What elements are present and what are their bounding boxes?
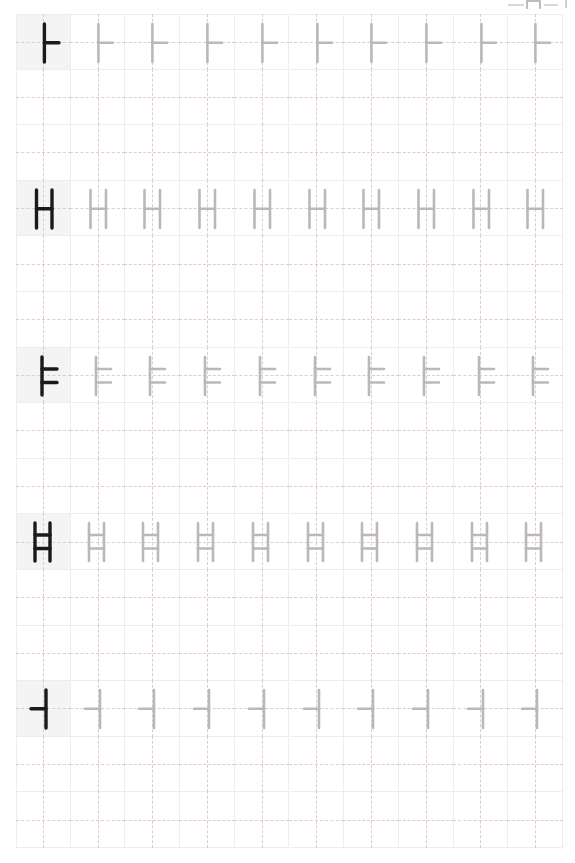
vertical-guide-line	[535, 791, 536, 848]
trace-character-glyph	[508, 348, 563, 404]
vertical-guide-line	[535, 291, 536, 348]
trace-character-cell[interactable]	[344, 14, 399, 70]
blank-cell	[508, 292, 563, 348]
trace-character-glyph	[71, 348, 126, 404]
vertical-guide-line	[207, 458, 208, 515]
handwriting-practice-grid	[16, 14, 563, 848]
trace-character-cell[interactable]	[125, 181, 180, 237]
trace-character-glyph	[290, 681, 345, 737]
trace-character-cell[interactable]	[454, 681, 509, 737]
trace-character-cell[interactable]	[71, 348, 126, 404]
vertical-guide-line	[371, 569, 372, 626]
trace-character-glyph	[290, 181, 345, 237]
blank-cell	[125, 459, 180, 515]
vertical-guide-line	[480, 402, 481, 459]
trace-character-cell[interactable]	[235, 514, 290, 570]
model-character-glyph	[17, 681, 72, 737]
blank-cell	[235, 570, 290, 626]
trace-character-cell[interactable]	[454, 181, 509, 237]
trace-character-cell[interactable]	[344, 681, 399, 737]
trace-character-cell[interactable]	[399, 348, 454, 404]
trace-character-cell[interactable]	[454, 348, 509, 404]
trace-character-cell[interactable]	[508, 348, 563, 404]
model-character-cell	[16, 181, 71, 237]
trace-character-cell[interactable]	[235, 681, 290, 737]
trace-character-cell[interactable]	[180, 348, 235, 404]
trace-character-cell[interactable]	[180, 181, 235, 237]
trace-character-cell[interactable]	[180, 681, 235, 737]
trace-character-cell[interactable]	[508, 181, 563, 237]
trace-character-cell[interactable]	[125, 681, 180, 737]
blank-cell	[290, 792, 345, 848]
trace-character-cell[interactable]	[290, 681, 345, 737]
vertical-guide-line	[207, 291, 208, 348]
blank-cell	[344, 570, 399, 626]
trace-character-cell[interactable]	[399, 181, 454, 237]
trace-character-cell[interactable]	[399, 14, 454, 70]
blank-cell	[508, 125, 563, 181]
blank-cell	[16, 626, 71, 682]
vertical-guide-line	[43, 402, 44, 459]
trace-character-cell[interactable]	[125, 348, 180, 404]
trace-character-cell[interactable]	[508, 681, 563, 737]
blank-cell	[71, 737, 126, 793]
trace-character-cell[interactable]	[180, 514, 235, 570]
blank-cell	[71, 459, 126, 515]
blank-cell	[180, 292, 235, 348]
vertical-guide-line	[316, 736, 317, 793]
trace-character-glyph	[344, 348, 399, 404]
blank-cell	[399, 292, 454, 348]
trace-character-glyph	[399, 181, 454, 237]
vertical-guide-line	[535, 458, 536, 515]
trace-character-cell[interactable]	[454, 514, 509, 570]
vertical-guide-line	[262, 291, 263, 348]
trace-character-glyph	[180, 348, 235, 404]
trace-character-cell[interactable]	[180, 14, 235, 70]
blank-cell	[344, 125, 399, 181]
vertical-guide-line	[98, 235, 99, 292]
model-character-cell	[16, 348, 71, 404]
trace-character-cell[interactable]	[71, 181, 126, 237]
trace-character-cell[interactable]	[290, 348, 345, 404]
vertical-guide-line	[480, 791, 481, 848]
vertical-guide-line	[262, 235, 263, 292]
trace-character-cell[interactable]	[454, 14, 509, 70]
trace-character-cell[interactable]	[399, 681, 454, 737]
blank-cell	[125, 737, 180, 793]
trace-character-cell[interactable]	[290, 514, 345, 570]
trace-character-cell[interactable]	[235, 181, 290, 237]
trace-character-cell[interactable]	[399, 514, 454, 570]
blank-cell	[290, 292, 345, 348]
trace-character-cell[interactable]	[290, 181, 345, 237]
trace-character-glyph	[235, 681, 290, 737]
blank-cell	[71, 570, 126, 626]
vertical-guide-line	[43, 235, 44, 292]
trace-character-cell[interactable]	[290, 14, 345, 70]
vertical-guide-line	[43, 625, 44, 682]
blank-cell	[344, 70, 399, 126]
trace-character-cell[interactable]	[344, 348, 399, 404]
blank-cell	[290, 403, 345, 459]
trace-character-cell[interactable]	[508, 14, 563, 70]
blank-cell	[180, 70, 235, 126]
trace-character-glyph	[180, 15, 235, 71]
trace-character-cell[interactable]	[344, 514, 399, 570]
vertical-guide-line	[262, 124, 263, 181]
trace-character-cell[interactable]	[235, 348, 290, 404]
vertical-guide-line	[98, 69, 99, 126]
trace-character-cell[interactable]	[344, 181, 399, 237]
blank-row	[16, 236, 563, 292]
trace-character-cell[interactable]	[125, 514, 180, 570]
toolbar-artifact-tick	[565, 0, 567, 8]
blank-cell	[235, 403, 290, 459]
toolbar-artifact-bar-left	[508, 4, 524, 6]
practice-row	[16, 14, 563, 70]
vertical-guide-line	[98, 291, 99, 348]
trace-character-cell[interactable]	[235, 14, 290, 70]
trace-character-cell[interactable]	[71, 681, 126, 737]
trace-character-cell[interactable]	[71, 14, 126, 70]
trace-character-cell[interactable]	[71, 514, 126, 570]
trace-character-cell[interactable]	[508, 514, 563, 570]
trace-character-glyph	[344, 514, 399, 570]
trace-character-cell[interactable]	[125, 14, 180, 70]
